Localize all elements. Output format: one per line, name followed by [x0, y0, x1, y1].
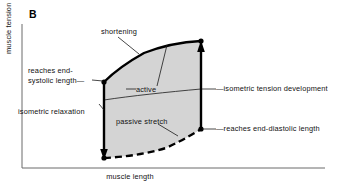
- annotation-shortening: shortening: [101, 27, 137, 37]
- annotation-reaches-end-diastolic-length: —reaches end-diastolic length: [216, 124, 320, 134]
- annotation-isometric-tension-development: —isometric tension development: [216, 84, 328, 94]
- loop-fill-region: [104, 41, 201, 158]
- leader-line-shortening: [118, 37, 139, 54]
- figure-panel-b: B muscle tension muscle length reaches e…: [0, 0, 345, 186]
- panel-letter: B: [29, 8, 37, 20]
- x-axis-title: muscle length: [90, 172, 170, 181]
- annotation-reaches-end-systolic-length-line2: systolic length—: [28, 76, 84, 86]
- annotation-reaches-end-systolic-length-line1: reaches end-: [28, 66, 84, 76]
- annotation-isometric-relaxation: isometric relaxation: [18, 107, 85, 117]
- annotation-passive-stretch: passive stretch: [116, 117, 168, 127]
- annotation-reaches-end-systolic-length: reaches end- systolic length—: [28, 66, 84, 85]
- y-axis-title: muscle tension: [4, 0, 13, 54]
- annotation-active: active: [136, 85, 156, 95]
- leader-line-end-systolic: [92, 80, 103, 81]
